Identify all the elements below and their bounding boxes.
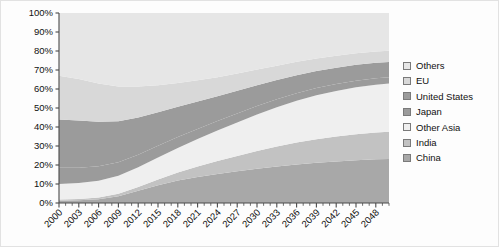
x-tick-label: 2024	[200, 207, 223, 230]
legend-item-united-states[interactable]: United States	[403, 89, 498, 104]
y-tick-label: 10%	[34, 178, 54, 189]
legend-swatch-icon	[403, 123, 411, 131]
y-tick-label: 80%	[34, 45, 54, 56]
legend-item-label: India	[416, 138, 437, 148]
legend-item-label: Japan	[416, 107, 442, 117]
legend-item-label: China	[416, 153, 441, 163]
y-tick-label: 40%	[34, 121, 54, 132]
y-tick-label: 70%	[34, 64, 54, 75]
legend-item-eu[interactable]: EU	[403, 73, 498, 88]
legend-item-japan[interactable]: Japan	[403, 104, 498, 119]
x-tick-label: 2036	[279, 207, 302, 230]
x-tick-label: 2012	[121, 207, 144, 230]
legend-item-label: United States	[416, 92, 473, 102]
legend-swatch-icon	[403, 108, 411, 116]
y-tick-label: 90%	[34, 26, 54, 37]
legend-swatch-icon	[403, 154, 411, 162]
chart-legend: OthersEUUnited StatesJapanOther AsiaIndi…	[403, 58, 498, 166]
legend-item-others[interactable]: Others	[403, 58, 498, 73]
x-axis-ticks	[59, 203, 389, 208]
legend-swatch-icon	[403, 77, 411, 85]
y-tick-label: 60%	[34, 83, 54, 94]
y-tick-label: 20%	[34, 159, 54, 170]
x-axis-labels: 2000200320062009201220152018202120242027…	[42, 207, 382, 230]
x-tick-label: 2033	[259, 207, 282, 230]
chart-figure: 0%10%20%30%40%50%60%70%80%90%100% 200020…	[0, 0, 499, 247]
legend-item-other-asia[interactable]: Other Asia	[403, 120, 498, 135]
x-tick-label: 2003	[61, 207, 84, 230]
x-tick-label: 2039	[299, 207, 322, 230]
y-tick-label: 100%	[29, 7, 54, 18]
legend-item-label: EU	[416, 76, 429, 86]
x-tick-label: 2009	[101, 207, 124, 230]
x-tick-label: 2042	[319, 207, 342, 230]
legend-swatch-icon	[403, 139, 411, 147]
x-tick-label: 2018	[160, 207, 183, 230]
x-tick-label: 2045	[339, 207, 362, 230]
x-tick-label: 2000	[42, 207, 65, 230]
legend-item-label: Other Asia	[416, 123, 460, 133]
legend-swatch-icon	[403, 62, 411, 70]
area-bands-group	[59, 13, 389, 203]
x-tick-label: 2048	[358, 207, 381, 230]
x-tick-label: 2027	[220, 207, 243, 230]
y-tick-label: 0%	[39, 197, 53, 208]
legend-item-india[interactable]: India	[403, 135, 498, 150]
legend-item-china[interactable]: China	[403, 150, 498, 165]
x-tick-label: 2021	[180, 207, 203, 230]
x-tick-label: 2015	[141, 207, 164, 230]
legend-item-label: Others	[416, 61, 445, 71]
legend-swatch-icon	[403, 92, 411, 100]
y-tick-label: 50%	[34, 102, 54, 113]
x-tick-label: 2006	[81, 207, 104, 230]
y-axis-labels: 0%10%20%30%40%50%60%70%80%90%100%	[29, 7, 54, 208]
x-tick-label: 2030	[240, 207, 263, 230]
y-tick-label: 30%	[34, 140, 54, 151]
